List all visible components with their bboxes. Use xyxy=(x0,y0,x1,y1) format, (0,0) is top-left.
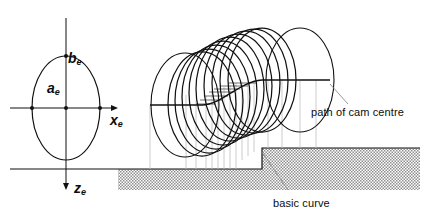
label-semi-axis-b: be xyxy=(68,50,82,67)
label-axis-z: ze xyxy=(74,180,86,197)
diagram-canvas: ae be xe ze path of cam centre basic cur… xyxy=(0,0,433,218)
reference-ellipse xyxy=(10,18,112,184)
callout-basic-curve: basic curve xyxy=(273,197,330,209)
label-semi-axis-a: ae xyxy=(47,80,60,97)
label-axis-x: xe xyxy=(110,112,123,129)
callout-path-of-cam-centre: path of cam centre xyxy=(311,106,404,118)
